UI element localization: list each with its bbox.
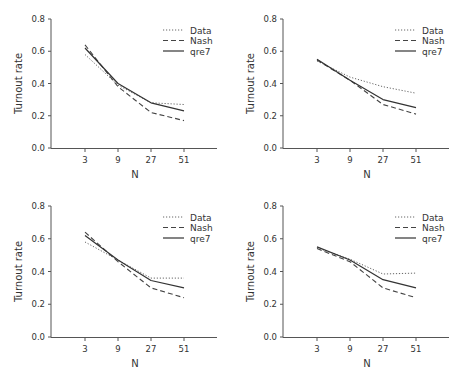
y-tick-label: 0.0 bbox=[31, 332, 45, 342]
x-tick-label: 9 bbox=[347, 344, 352, 354]
x-tick-label: 27 bbox=[146, 344, 157, 354]
legend: DataNashqre7 bbox=[395, 213, 445, 244]
legend-label-data: Data bbox=[422, 213, 444, 223]
y-tick-label: 0.8 bbox=[263, 201, 277, 211]
series-line-qre7 bbox=[85, 236, 184, 288]
x-tick-label: 3 bbox=[314, 155, 319, 165]
series-line-qre7 bbox=[85, 48, 184, 111]
legend-label-data: Data bbox=[422, 26, 444, 36]
x-tick-label: 3 bbox=[82, 344, 87, 354]
y-tick-label: 0.4 bbox=[263, 79, 277, 89]
series-line-nash bbox=[317, 249, 416, 298]
chart-panel-top-right: 0.00.20.40.60.8392751NTurnout rateDataNa… bbox=[245, 14, 449, 180]
x-tick-label: 27 bbox=[378, 155, 389, 165]
legend-label-qre7: qre7 bbox=[422, 234, 442, 244]
legend-label-qre7: qre7 bbox=[422, 47, 442, 57]
y-axis-label: Turnout rate bbox=[245, 53, 256, 115]
y-tick-label: 0.8 bbox=[31, 14, 45, 24]
chart-panel-bottom-right: 0.00.20.40.60.8392751NTurnout rateDataNa… bbox=[245, 201, 449, 369]
y-tick-label: 0.4 bbox=[31, 79, 45, 89]
x-tick-label: 3 bbox=[314, 344, 319, 354]
y-tick-label: 0.2 bbox=[263, 299, 277, 309]
x-axis-label: N bbox=[131, 169, 138, 180]
x-axis-label: N bbox=[131, 358, 138, 369]
x-tick-label: 51 bbox=[179, 155, 190, 165]
y-tick-label: 0.4 bbox=[31, 267, 45, 277]
legend-label-data: Data bbox=[190, 213, 212, 223]
chart-panel-top-left: 0.00.20.40.60.8392751NTurnout rateDataNa… bbox=[13, 14, 217, 180]
x-axis-label: N bbox=[363, 358, 370, 369]
x-tick-label: 27 bbox=[378, 344, 389, 354]
legend: DataNashqre7 bbox=[163, 213, 213, 244]
x-tick-label: 9 bbox=[115, 344, 120, 354]
y-tick-label: 0.6 bbox=[263, 234, 277, 244]
y-tick-label: 0.0 bbox=[31, 143, 45, 153]
series-line-qre7 bbox=[317, 59, 416, 107]
series-line-data bbox=[317, 61, 416, 93]
y-axis-label: Turnout rate bbox=[245, 241, 256, 303]
x-tick-label: 3 bbox=[82, 155, 87, 165]
series-line-nash bbox=[85, 45, 184, 121]
y-tick-label: 0.0 bbox=[263, 143, 277, 153]
legend-label-qre7: qre7 bbox=[190, 234, 210, 244]
y-tick-label: 0.6 bbox=[31, 46, 45, 56]
y-tick-label: 0.2 bbox=[263, 111, 277, 121]
series-line-qre7 bbox=[317, 247, 416, 288]
legend-label-nash: Nash bbox=[190, 223, 213, 233]
x-tick-label: 51 bbox=[411, 155, 422, 165]
chart-panel-bottom-left: 0.00.20.40.60.8392751NTurnout rateDataNa… bbox=[13, 201, 217, 369]
legend: DataNashqre7 bbox=[163, 26, 213, 57]
y-axis-label: Turnout rate bbox=[13, 53, 24, 115]
x-tick-label: 9 bbox=[347, 155, 352, 165]
series-line-data bbox=[85, 242, 184, 278]
y-tick-label: 0.6 bbox=[31, 234, 45, 244]
y-tick-label: 0.2 bbox=[31, 299, 45, 309]
turnout-rate-figure: 0.00.20.40.60.8392751NTurnout rateDataNa… bbox=[0, 0, 464, 382]
x-tick-label: 27 bbox=[146, 155, 157, 165]
x-tick-label: 51 bbox=[179, 344, 190, 354]
legend: DataNashqre7 bbox=[395, 26, 445, 57]
x-tick-label: 51 bbox=[411, 344, 422, 354]
legend-label-nash: Nash bbox=[190, 36, 213, 46]
y-tick-label: 0.8 bbox=[263, 14, 277, 24]
y-axis-label: Turnout rate bbox=[13, 241, 24, 303]
y-tick-label: 0.6 bbox=[263, 46, 277, 56]
y-tick-label: 0.2 bbox=[31, 111, 45, 121]
legend-label-nash: Nash bbox=[422, 36, 445, 46]
x-tick-label: 9 bbox=[115, 155, 120, 165]
legend-label-nash: Nash bbox=[422, 223, 445, 233]
series-line-data bbox=[85, 55, 184, 105]
x-axis-label: N bbox=[363, 169, 370, 180]
legend-label-data: Data bbox=[190, 26, 212, 36]
y-tick-label: 0.8 bbox=[31, 201, 45, 211]
legend-label-qre7: qre7 bbox=[190, 47, 210, 57]
series-line-nash bbox=[85, 232, 184, 298]
y-tick-label: 0.0 bbox=[263, 332, 277, 342]
y-tick-label: 0.4 bbox=[263, 267, 277, 277]
